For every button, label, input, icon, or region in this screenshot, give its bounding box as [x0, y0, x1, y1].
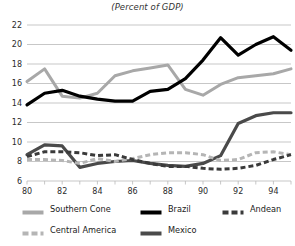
- series-line-mexico: [27, 113, 291, 168]
- legend-label: Andean: [250, 204, 281, 214]
- dashed-line-swatch-icon: [22, 224, 44, 235]
- legend-row: Central AmericaMexico: [0, 219, 295, 240]
- x-axis-tick-label: 82: [57, 187, 67, 196]
- dashed-line-swatch-icon: [222, 203, 244, 214]
- legend-label: Mexico: [168, 225, 197, 235]
- y-axis-tick-label: 18: [12, 60, 22, 69]
- legend-row: Southern ConeBrazilAndean: [0, 198, 295, 219]
- x-axis-tick-label: 88: [163, 187, 173, 196]
- y-axis-tick-label: 16: [12, 79, 22, 88]
- chart-legend: Southern ConeBrazilAndeanCentral America…: [0, 198, 295, 240]
- y-axis-tick-label: 10: [12, 138, 22, 147]
- line-swatch-icon: [22, 203, 44, 214]
- x-axis-tick-label: 90: [198, 187, 208, 196]
- chart-title: (Percent of GDP): [0, 2, 295, 12]
- y-axis-tick-label: 20: [12, 40, 22, 49]
- legend-entry[interactable]: Andean: [222, 198, 281, 219]
- x-axis-tick-label: 80: [22, 187, 32, 196]
- y-axis-tick-label: 8: [17, 157, 22, 166]
- x-axis-tick-label: 94: [268, 187, 278, 196]
- y-axis-tick-label: 22: [12, 21, 22, 30]
- line-chart-plot: 68101214161820228082848688909294: [0, 14, 295, 198]
- legend-label: Brazil: [168, 204, 191, 214]
- legend-entry[interactable]: Brazil: [140, 198, 191, 219]
- legend-entry[interactable]: Central America: [22, 219, 116, 240]
- legend-entry[interactable]: Southern Cone: [22, 198, 111, 219]
- legend-entry[interactable]: Mexico: [140, 219, 197, 240]
- chart-container: (Percent of GDP) 68101214161820228082848…: [0, 0, 295, 246]
- x-axis-tick-label: 86: [128, 187, 138, 196]
- legend-label: Southern Cone: [50, 204, 111, 214]
- x-axis-tick-label: 92: [233, 187, 243, 196]
- y-axis-tick-label: 6: [17, 177, 22, 186]
- y-axis-tick-label: 12: [12, 118, 22, 127]
- x-axis-tick-label: 84: [92, 187, 102, 196]
- y-axis-tick-label: 14: [12, 99, 22, 108]
- line-swatch-icon: [140, 224, 162, 235]
- line-swatch-icon: [140, 203, 162, 214]
- legend-label: Central America: [50, 225, 116, 235]
- series-line-brazil: [27, 37, 291, 105]
